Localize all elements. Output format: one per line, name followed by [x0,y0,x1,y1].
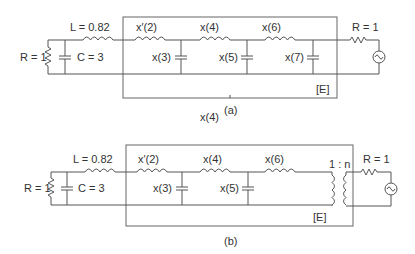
label-C-a: C = 3 [77,51,104,63]
label-C-b: C = 3 [78,182,105,194]
label-L-a: L = 0.82 [70,21,110,33]
label-E-a: [E] [316,83,329,95]
label-x6-a: x(6) [262,21,281,33]
inductor-x2-b [137,169,167,172]
label-R-b: R = 1 [24,182,51,194]
inductor-x6-b [265,169,295,172]
label-x5-a: x(5) [219,51,238,63]
inductor-L-a [83,37,113,40]
label-x6-b: x(6) [265,153,284,165]
caption-b: (b) [224,235,237,247]
caption-a: (a) [224,104,237,116]
source-resistor-a [350,37,366,43]
label-x7-a: x(7) [285,51,304,63]
panel-a: L = 0.82 R = 1 C = 3 x′(2) x(3) x(4) x(5… [20,17,385,123]
inductor-x4-a [200,37,230,40]
ac-source-icon-b [385,183,397,195]
label-Rs-a: R = 1 [352,21,379,33]
inductor-x2-a [135,37,165,40]
label-x4-a: x(4) [200,21,219,33]
label-L-b: L = 0.82 [73,153,113,165]
panel-b: L = 0.82 R = 1 C = 3 x′(2) x(3) x(4) x(5… [24,145,397,247]
inductor-L-b [85,169,115,172]
label-x2-a: x′(2) [136,21,157,33]
label-x3-b: x(3) [153,182,172,194]
transformer-icon-b [332,172,346,206]
label-x5-b: x(5) [220,182,239,194]
label-x4-below-a: x(4) [200,111,219,123]
load-capacitor-a [59,40,71,74]
label-ratio-b: 1 : n [329,158,350,170]
source-resistor-b [361,169,377,175]
circuit-diagram: L = 0.82 R = 1 C = 3 x′(2) x(3) x(4) x(5… [0,0,415,254]
label-Rs-b: R = 1 [363,153,390,165]
label-x4-b: x(4) [203,153,222,165]
load-capacitor-b [61,172,73,205]
inductor-x6-a [265,37,295,40]
label-x3-a: x(3) [152,51,171,63]
capacitor-x3-b [176,172,188,205]
label-x2-b: x′(2) [138,153,159,165]
label-R-a: R = 1 [20,51,47,63]
capacitor-x3-a [175,40,187,74]
label-E-b: [E] [313,211,326,223]
ac-source-icon-a [373,51,385,63]
capacitor-x5-b [242,172,254,205]
capacitor-x7-a [307,40,319,74]
capacitor-x5-a [241,40,253,74]
inductor-x4-b [200,169,230,172]
